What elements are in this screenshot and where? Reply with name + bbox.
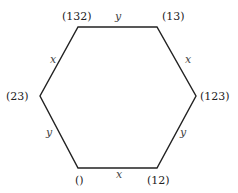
vertex-label-v_e: ()	[75, 174, 84, 187]
edge-label: x	[116, 168, 123, 181]
vertex-label-v_12: (12)	[147, 174, 170, 187]
vertex-label-v_123: (123)	[200, 90, 230, 103]
edge-label: y	[179, 126, 187, 139]
edge-label: x	[185, 53, 192, 66]
vertex-label-v_132: (132)	[62, 10, 92, 23]
vertex-label-v_13: (13)	[162, 10, 185, 23]
edge-label: x	[50, 53, 57, 66]
edge-label: y	[45, 126, 53, 139]
vertex-label-v_23: (23)	[6, 90, 29, 103]
edge-label: y	[114, 10, 122, 23]
hexagon-outline	[40, 27, 196, 168]
hexagon-diagram: (132)(13)(123)(12)()(23) yxyxyx	[0, 0, 238, 193]
